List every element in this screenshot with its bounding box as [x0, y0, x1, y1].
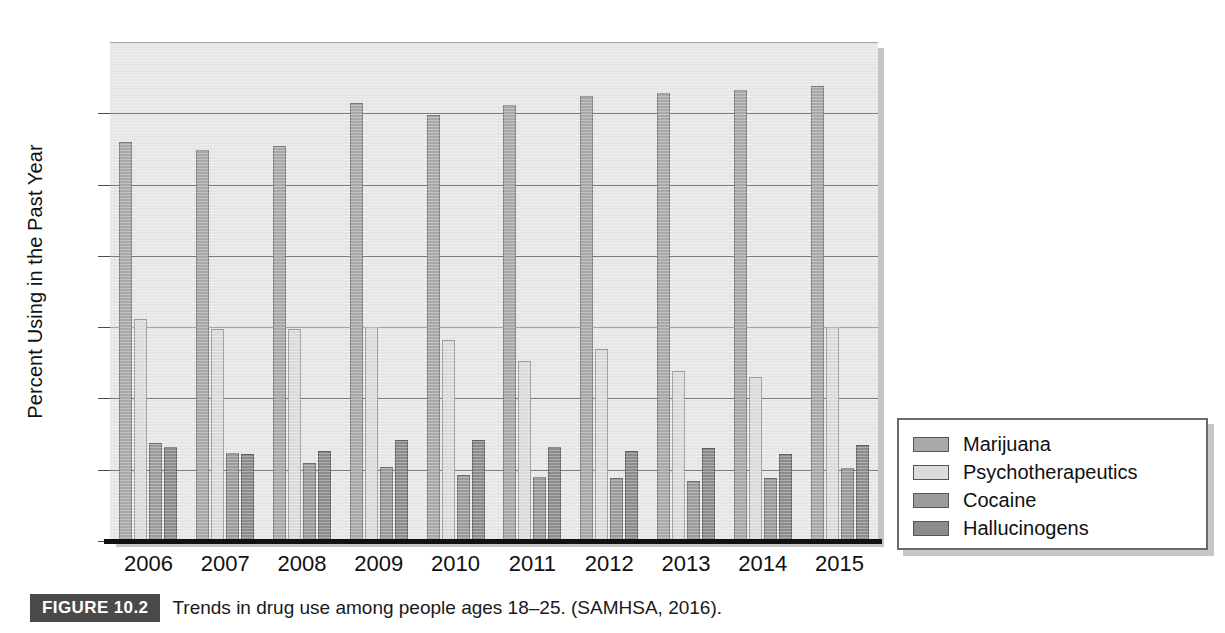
bar-psychotherapeutics-2010 — [442, 340, 455, 541]
bar-group-2014 — [724, 42, 801, 541]
bar-hallucinogens-2009 — [395, 440, 408, 541]
bar-group-2008 — [264, 42, 341, 541]
y-tick-mark-10 — [98, 398, 110, 399]
legend-swatch-psychotherapeutics — [913, 465, 949, 480]
bar-group-2006 — [110, 42, 187, 541]
legend-label-cocaine: Cocaine — [963, 489, 1036, 512]
plot-area — [110, 42, 878, 541]
bar-marijuana-2009 — [350, 103, 363, 541]
bar-psychotherapeutics-2013 — [672, 371, 685, 541]
legend-item-psychotherapeutics: Psychotherapeutics — [913, 459, 1138, 485]
bar-hallucinogens-2010 — [472, 440, 485, 541]
bar-marijuana-2011 — [503, 105, 516, 541]
bar-marijuana-2010 — [427, 115, 440, 541]
y-tick-mark-30 — [98, 113, 110, 114]
bar-marijuana-2015 — [811, 86, 824, 541]
chart-area: Percent Using in the Past Year 051015202… — [0, 0, 900, 585]
legend-swatch-marijuana — [913, 437, 949, 452]
bar-cocaine-2014 — [764, 478, 777, 541]
legend-item-marijuana: Marijuana — [913, 431, 1051, 457]
figure-caption-text: Trends in drug use among people ages 18–… — [172, 597, 722, 619]
bar-hallucinogens-2006 — [164, 447, 177, 541]
bar-group-2013 — [648, 42, 725, 541]
bar-cocaine-2013 — [687, 481, 700, 541]
bar-psychotherapeutics-2007 — [211, 329, 224, 541]
bar-cocaine-2012 — [610, 478, 623, 541]
legend-label-hallucinogens: Hallucinogens — [963, 517, 1089, 540]
x-axis-line — [104, 539, 882, 544]
bar-psychotherapeutics-2015 — [826, 327, 839, 541]
bar-group-2015 — [801, 42, 878, 541]
bar-cocaine-2009 — [380, 467, 393, 541]
y-tick-mark-25 — [98, 185, 110, 186]
bar-marijuana-2012 — [580, 96, 593, 541]
legend-item-hallucinogens: Hallucinogens — [913, 515, 1089, 541]
bar-cocaine-2006 — [149, 443, 162, 541]
bar-marijuana-2014 — [734, 90, 747, 541]
bar-group-2012 — [571, 42, 648, 541]
bar-cocaine-2011 — [533, 477, 546, 541]
figure-container: Percent Using in the Past Year 051015202… — [0, 0, 1225, 633]
legend-label-psychotherapeutics: Psychotherapeutics — [963, 461, 1138, 484]
bar-hallucinogens-2011 — [548, 447, 561, 541]
bar-psychotherapeutics-2014 — [749, 377, 762, 541]
bar-cocaine-2007 — [226, 453, 239, 541]
x-tick-label-2008: 2008 — [264, 551, 341, 577]
chart-legend: MarijuanaPsychotherapeuticsCocaineHalluc… — [897, 418, 1208, 550]
bar-hallucinogens-2014 — [779, 454, 792, 541]
x-tick-label-2006: 2006 — [110, 551, 187, 577]
y-tick-mark-15 — [98, 327, 110, 328]
bar-psychotherapeutics-2012 — [595, 349, 608, 541]
bar-hallucinogens-2012 — [625, 451, 638, 541]
bar-psychotherapeutics-2009 — [365, 327, 378, 541]
bar-psychotherapeutics-2011 — [518, 361, 531, 541]
bar-group-2009 — [340, 42, 417, 541]
figure-number-badge: FIGURE 10.2 — [30, 594, 160, 622]
bar-hallucinogens-2013 — [702, 448, 715, 541]
bar-marijuana-2008 — [273, 146, 286, 541]
legend-item-cocaine: Cocaine — [913, 487, 1036, 513]
legend-swatch-cocaine — [913, 493, 949, 508]
bar-cocaine-2008 — [303, 463, 316, 541]
bar-group-2010 — [417, 42, 494, 541]
bar-cocaine-2010 — [457, 475, 470, 541]
x-tick-label-2010: 2010 — [417, 551, 494, 577]
y-axis-title: Percent Using in the Past Year — [24, 72, 47, 492]
x-tick-label-2012: 2012 — [571, 551, 648, 577]
bar-hallucinogens-2015 — [856, 445, 869, 541]
bar-marijuana-2006 — [119, 142, 132, 541]
bar-marijuana-2007 — [196, 150, 209, 541]
x-tick-label-2013: 2013 — [648, 551, 725, 577]
y-tick-mark-20 — [98, 256, 110, 257]
bar-hallucinogens-2007 — [241, 454, 254, 541]
x-tick-label-2007: 2007 — [187, 551, 264, 577]
bar-psychotherapeutics-2008 — [288, 329, 301, 541]
bar-hallucinogens-2008 — [318, 451, 331, 541]
legend-label-marijuana: Marijuana — [963, 433, 1051, 456]
figure-caption: FIGURE 10.2 Trends in drug use among peo… — [30, 594, 722, 622]
x-tick-label-2014: 2014 — [724, 551, 801, 577]
bar-psychotherapeutics-2006 — [134, 319, 147, 541]
x-tick-label-2009: 2009 — [340, 551, 417, 577]
bar-cocaine-2015 — [841, 468, 854, 541]
x-tick-label-2011: 2011 — [494, 551, 571, 577]
bar-group-2011 — [494, 42, 571, 541]
y-tick-mark-5 — [98, 470, 110, 471]
x-tick-label-2015: 2015 — [801, 551, 878, 577]
legend-swatch-hallucinogens — [913, 521, 949, 536]
bar-marijuana-2013 — [657, 93, 670, 541]
bar-group-2007 — [187, 42, 264, 541]
